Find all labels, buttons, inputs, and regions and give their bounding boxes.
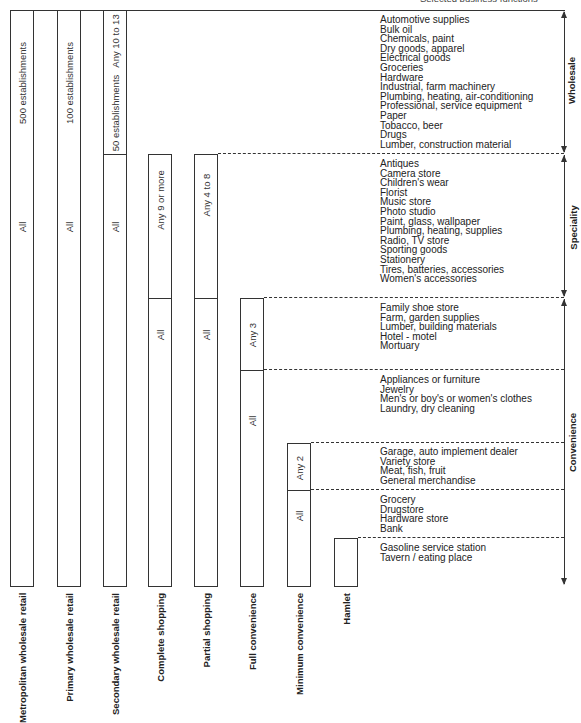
separator-minimum-convenience-any [311,442,564,443]
arrow-down-icon [561,290,567,297]
column-partial-shopping: Any 4 to 8 All [194,154,218,587]
segment-label: All [247,416,258,427]
list-item: Tavern / eating place [380,553,486,563]
list-item: Lumber, construction material [380,140,533,150]
column-primary: 100 establishments All [57,10,81,587]
segment-label: 500 establishments [17,42,28,124]
arrow-up-icon [561,11,567,18]
arrow-down-icon [561,578,567,585]
arrow-up-icon [561,299,567,306]
column-minimum-convenience: Any 2 All [287,443,311,587]
list-full-convenience-any: Family shoe store Farm, garden supplies … [380,303,497,351]
separator-speciality-convenience [264,297,564,298]
arrow-up-icon [561,155,567,162]
separator-hamlet [358,537,564,538]
segment-label: Any 10 to 13 [110,14,121,67]
separator-full-convenience [264,369,564,370]
list-minimum-convenience-any: Garage, auto implement dealer Variety st… [380,447,518,485]
segment-label: All [155,330,166,341]
category-speciality: Speciality [568,205,579,249]
list-speciality: Antiques Camera store Children's wear Fl… [380,159,504,284]
convenience-bracket-line [564,299,565,584]
list-hamlet: Gasoline service station Tavern / eating… [380,543,486,562]
segment-label: All [64,222,75,233]
column-label-full-convenience: Full convenience [247,593,258,723]
segment-label: Any 3 [247,323,258,347]
column-complete-shopping: Any 9 or more All [148,154,172,587]
segment-label: 50 establishments [110,75,121,152]
list-minimum-convenience-all: Grocery Drugstore Hardware store Bank [380,495,448,533]
segment-label: All [294,511,305,522]
list-item: General merchandise [380,476,518,486]
category-wholesale: Wholesale [566,57,577,104]
column-label-hamlet: Hamlet [341,593,352,723]
list-item: Mortuary [380,341,497,351]
segment-label: All [17,222,28,233]
column-label-secondary: Secondary wholesale retail [110,593,121,723]
column-metropolitan: 500 establishments All [10,10,34,587]
separator-minimum-convenience-all [311,489,564,490]
segment-label: Any 9 or more [155,170,166,230]
column-label-primary: Primary wholesale retail [64,593,75,723]
column-full-convenience: Any 3 All [240,298,264,587]
segment-label: 100 establishments [64,42,75,124]
speciality-bracket-line [564,155,565,296]
column-label-metropolitan: Metropolitan wholesale retail [17,593,28,723]
column-secondary: Any 10 to 13 50 establishments All [103,10,127,587]
caption: Selected business functions [420,0,538,4]
arrow-down-icon [561,146,567,153]
column-label-complete-shopping: Complete shopping [155,593,166,723]
column-hamlet [334,538,358,587]
category-convenience: Convenience [567,413,578,472]
top-border-line [10,10,565,11]
segment-label: Any 4 to 8 [201,174,212,217]
list-item: Bank [380,524,448,534]
segment-label: All [110,222,121,233]
list-full-convenience-all: Appliances or furniture Jewelry Men's or… [380,375,532,413]
wholesale-bracket-line [564,12,565,152]
segment-label: Any 2 [294,455,305,479]
column-label-minimum-convenience: Minimum convenience [294,593,305,723]
list-wholesale: Automotive supplies Bulk oil Chemicals, … [380,15,533,149]
separator-wholesale-speciality [218,153,564,154]
segment-label: All [201,330,212,341]
column-label-partial-shopping: Partial shopping [201,593,212,723]
list-item: Laundry, dry cleaning [380,404,532,414]
list-item: Women's accessories [380,274,504,284]
